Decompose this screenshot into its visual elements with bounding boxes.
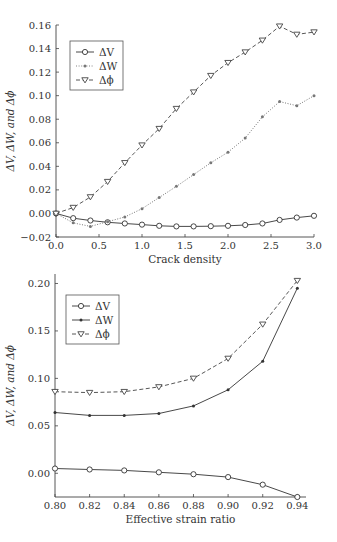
circle-marker-icon [295,494,300,499]
x-tick-label: 0.90 [217,500,239,511]
x-tick-label: 0.82 [78,500,100,511]
dot-marker-icon [54,411,57,414]
dot-marker-icon [209,161,212,164]
triangle-marker-icon [104,179,110,184]
chart-crack-density: 0.00.51.01.52.02.53.0−0.020.000.020.040.… [4,20,322,266]
dot-marker-icon [278,100,281,103]
dot-marker-icon [88,414,91,417]
circle-marker-icon [174,224,179,229]
y-tick-label: 0.16 [29,20,51,31]
dot-marker-icon [72,221,75,224]
y-tick-label: 0.20 [28,278,50,289]
legend-label: ΔW [95,314,114,326]
y-axis-title: ΔV, ΔW, and Δϕ [4,90,16,172]
series-ΔW [55,94,316,228]
dot-marker-icon [175,185,178,188]
dot-marker-icon [158,196,161,199]
y-tick-label: 0.05 [28,420,50,431]
circle-marker-icon [157,223,162,228]
circle-marker-icon [294,215,299,220]
triangle-marker-icon [259,38,265,43]
dot-marker-icon [261,115,264,118]
triangle-marker-icon [294,32,300,37]
dot-marker-icon [157,412,160,415]
x-tick-label: 0.94 [286,500,308,511]
x-tick-label: 0.84 [113,500,135,511]
circle-marker-icon [156,470,161,475]
dot-marker-icon [123,414,126,417]
circle-marker-icon [260,221,265,226]
dot-marker-icon [244,137,247,140]
x-axis-title: Effective strain ratio [126,513,236,525]
dot-marker-icon [296,287,299,290]
y-tick-label: 0.12 [29,67,51,78]
x-tick-label: 0.86 [148,500,170,511]
circle-marker-icon [122,468,127,473]
circle-marker-icon [191,472,196,477]
x-tick-label: 1.0 [134,240,150,251]
circle-marker-icon [71,216,76,221]
triangle-marker-icon [70,205,76,210]
legend: ΔVΔWΔϕ [66,295,119,344]
y-tick-label: 0.02 [29,184,51,195]
circle-marker-icon [311,213,316,218]
y-tick-label: 0.15 [28,325,50,336]
triangle-marker-icon [225,356,231,361]
dot-marker-icon [106,220,109,223]
x-tick-label: 3.0 [306,240,322,251]
y-tick-label: 0.08 [29,114,51,125]
y-tick-label: 0.00 [29,208,51,219]
dot-marker-icon [295,104,298,107]
circle-marker-icon [226,474,231,479]
triangle-marker-icon [156,385,162,390]
series-ΔV [53,211,316,229]
x-tick-label: 2.0 [220,240,236,251]
triangle-marker-icon [86,390,92,395]
triangle-marker-icon [260,322,266,327]
circle-marker-icon [87,467,92,472]
circle-marker-icon [260,482,265,487]
legend: ΔVΔWΔϕ [70,41,123,90]
dot-marker-icon [192,404,195,407]
dot-marker-icon [123,215,126,218]
circle-marker-icon [82,49,87,54]
chart-effective-strain-ratio: 0.800.820.840.860.880.900.920.940.000.05… [4,274,308,525]
legend-label: Δϕ [99,74,114,86]
triangle-marker-icon [122,161,128,166]
circle-marker-icon [191,224,196,229]
x-tick-label: 0.80 [44,500,66,511]
y-tick-label: 0.14 [29,43,51,54]
circle-marker-icon [88,218,93,223]
dot-marker-icon [89,225,92,228]
circle-marker-icon [225,223,230,228]
x-tick-label: 0.5 [91,240,107,251]
series-line [56,96,314,227]
triangle-marker-icon [87,195,93,200]
circle-marker-icon [139,222,144,227]
triangle-marker-icon [139,143,145,148]
dot-marker-icon [261,360,264,363]
dot-marker-icon [313,94,316,97]
dot-marker-icon [227,388,230,391]
y-tick-label: 0.00 [28,468,50,479]
y-tick-label: −0.02 [20,232,51,243]
dot-marker-icon [84,65,87,68]
triangle-marker-icon [276,24,282,29]
x-tick-label: 0.88 [182,500,204,511]
circle-marker-icon [52,466,57,471]
x-axis-title: Crack density [148,253,222,265]
y-tick-label: 0.04 [29,161,51,172]
legend-label: Δϕ [95,328,110,340]
circle-marker-icon [78,303,83,308]
dot-marker-icon [80,319,83,322]
series-line [56,213,314,226]
x-tick-label: 1.5 [177,240,193,251]
x-tick-label: 0.92 [252,500,274,511]
legend-label: ΔW [99,60,118,72]
y-axis-title: ΔV, ΔW, and Δϕ [4,345,16,427]
figure: 0.00.51.01.52.02.53.0−0.020.000.020.040.… [0,0,337,542]
legend-label: ΔV [95,300,111,312]
x-tick-label: 2.5 [263,240,279,251]
y-tick-label: 0.10 [28,373,50,384]
triangle-marker-icon [208,73,214,78]
